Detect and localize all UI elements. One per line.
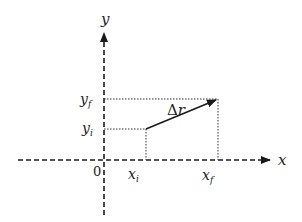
- y-axis-label: y: [100, 10, 110, 28]
- delta-r-label: Δr: [167, 101, 186, 119]
- x-axis-label: x: [278, 151, 287, 169]
- yi-label: yi: [81, 120, 93, 138]
- displacement-diagram: y x 0 yf yi xi xf Δr: [0, 0, 302, 222]
- origin-label: 0: [93, 164, 101, 179]
- xi-label: xi: [128, 166, 139, 184]
- xf-label: xf: [202, 167, 215, 185]
- yf-label: yf: [79, 91, 93, 109]
